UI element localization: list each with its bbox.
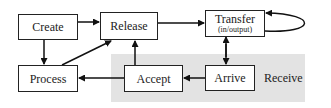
node-label: Create (32, 21, 63, 33)
node-sublabel: (in/output) (218, 25, 252, 34)
node-create: Create (18, 14, 78, 40)
node-process: Process (18, 65, 78, 92)
node-release: Release (100, 12, 158, 40)
node-label: Process (30, 73, 67, 85)
edge-process-release (62, 41, 111, 65)
node-label: Transfer (215, 13, 255, 25)
edge-transfer-self (265, 13, 305, 31)
node-accept: Accept (124, 65, 183, 92)
node-label: Release (110, 20, 147, 32)
node-transfer: Transfer (in/output) (205, 10, 265, 37)
state-diagram: Receive Create Release Transfer (in/outp… (0, 0, 331, 108)
node-label: Accept (137, 73, 171, 85)
node-label: Arrive (214, 72, 245, 84)
node-arrive: Arrive (205, 65, 255, 91)
